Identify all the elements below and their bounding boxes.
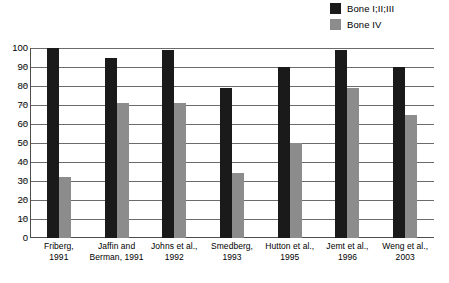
x-axis-label-line: Jemt et al.,	[319, 241, 377, 252]
bar-bone-i-ii-iii[interactable]	[335, 50, 347, 238]
x-axis-label-line: Jaffin and	[88, 241, 146, 252]
x-axis-label: Friberg,1991	[30, 241, 88, 263]
x-axis-label-line: Weng et al.,	[376, 241, 434, 252]
x-axis-label: Jaffin andBerman, 1991	[88, 241, 146, 263]
bar-bone-iv[interactable]	[405, 115, 417, 239]
x-axis-label-line: Johns et al.,	[145, 241, 203, 252]
bar-bone-iv[interactable]	[290, 143, 302, 238]
x-axis-label-line: 2003	[376, 252, 434, 263]
bar-chart: 1009080706050403020100 Friberg,1991Jaffi…	[0, 40, 449, 283]
legend-item-bone-iv: Bone IV	[330, 18, 394, 31]
legend-label-bone-i-ii-iii: Bone I;II;III	[347, 3, 394, 14]
bar-bone-iv[interactable]	[174, 103, 186, 238]
x-axis-label: Jemt et al.,1996	[319, 241, 377, 263]
y-tick-label-100: 100	[0, 43, 28, 53]
bar-bone-iv[interactable]	[59, 177, 71, 238]
bar-bone-iv[interactable]	[117, 103, 129, 238]
x-axis-label-line: Berman, 1991	[88, 252, 146, 263]
x-axis-label: Weng et al.,2003	[376, 241, 434, 263]
legend-swatch-bone-iv	[330, 19, 341, 30]
bar-bone-i-ii-iii[interactable]	[220, 88, 232, 238]
x-axis-label-line: 1993	[203, 252, 261, 263]
x-axis-labels: Friberg,1991Jaffin andBerman, 1991Johns …	[30, 241, 434, 263]
x-axis-label: Johns et al.,1992	[145, 241, 203, 263]
bar-bone-i-ii-iii[interactable]	[47, 48, 59, 238]
legend-swatch-bone-i-ii-iii	[330, 3, 341, 14]
y-tick-label-0: 0	[0, 233, 28, 243]
bar-bone-i-ii-iii[interactable]	[162, 50, 174, 238]
x-axis-label-line: 1991	[30, 252, 88, 263]
bar-group[interactable]	[145, 48, 203, 238]
legend-item-bone-i-ii-iii: Bone I;II;III	[330, 2, 394, 15]
bar-group[interactable]	[88, 48, 146, 238]
x-axis-label: Smedberg,1993	[203, 241, 261, 263]
bar-bone-i-ii-iii[interactable]	[278, 67, 290, 238]
x-axis-label: Hutton et al.,1995	[261, 241, 319, 263]
x-axis-label-line: Smedberg,	[203, 241, 261, 252]
x-axis-label-line: 1995	[261, 252, 319, 263]
bar-group[interactable]	[376, 48, 434, 238]
bar-group[interactable]	[203, 48, 261, 238]
x-axis-label-line: Friberg,	[30, 241, 88, 252]
x-axis-label-line: 1992	[145, 252, 203, 263]
bar-group[interactable]	[30, 48, 88, 238]
bar-group[interactable]	[319, 48, 377, 238]
bar-group[interactable]	[261, 48, 319, 238]
bar-bone-iv[interactable]	[347, 88, 359, 238]
x-axis-label-line: Hutton et al.,	[261, 241, 319, 252]
bar-bone-iv[interactable]	[232, 173, 244, 238]
bar-bone-i-ii-iii[interactable]	[393, 67, 405, 238]
x-axis-label-line: 1996	[319, 252, 377, 263]
bar-groups	[30, 48, 434, 238]
bar-bone-i-ii-iii[interactable]	[105, 58, 117, 239]
legend-label-bone-iv: Bone IV	[347, 19, 382, 30]
chart-legend: Bone I;II;III Bone IV	[330, 2, 394, 31]
